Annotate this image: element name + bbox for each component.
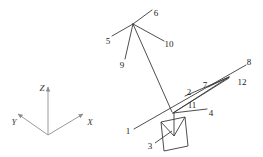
prism-outline-group [155,112,188,151]
main-ray-group [134,65,246,129]
diagram-vector-layer [0,0,263,157]
node-label-10: 10 [165,40,174,49]
node-label-9: 9 [120,61,125,70]
node-label-12: 12 [238,78,247,87]
prism-front-face [161,117,188,151]
ray-1-to-8 [134,65,246,129]
x-axis-line [48,114,83,135]
node-label-2: 2 [187,88,192,97]
node-label-5: 5 [106,37,111,46]
convergent-bundle-group [173,77,229,113]
bundle-line-4 [173,78,229,113]
node-label-6: 6 [154,9,159,18]
hub-branch-to-lower-node [133,24,172,112]
node-label-4: 4 [209,109,214,118]
prism-leader-3 [155,131,172,143]
axis-label-z: Z [39,84,44,93]
y-axis-line [18,114,48,135]
node-label-8: 8 [247,58,252,67]
hub-branch-5 [112,24,133,36]
coordinate-axes [18,87,83,135]
figure-canvas: Z Y X 1 2 3 4 5 6 7 8 9 10 11 12 [0,0,263,157]
axis-label-y: Y [11,118,16,127]
hub-branch-6 [133,10,152,24]
node-label-11: 11 [188,101,197,110]
hub-branch-10 [133,24,164,41]
node-label-3: 3 [148,142,153,151]
axis-label-x: X [87,118,93,127]
node-label-7: 7 [203,81,208,90]
hub-branch-9 [125,24,133,59]
node-label-1: 1 [126,127,131,136]
